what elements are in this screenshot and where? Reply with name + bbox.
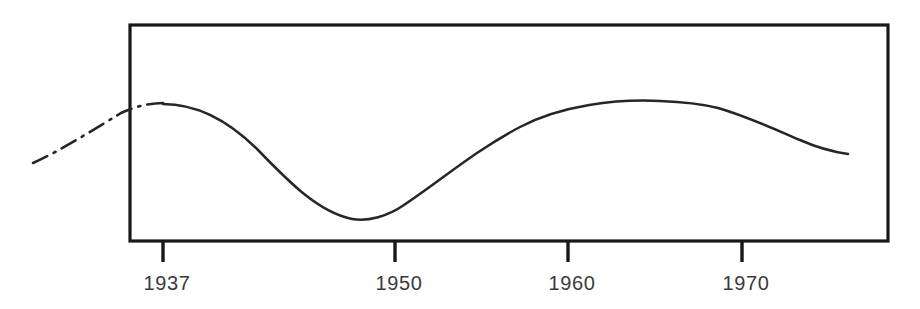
axis-tick-label-1950: 1950	[376, 272, 423, 294]
line-chart-figure: 1937 1950 1960 1970	[0, 0, 920, 309]
axis-tick-label-1960: 1960	[549, 272, 596, 294]
chart-canvas: 1937 1950 1960 1970	[0, 0, 920, 309]
axis-tick-label-1970: 1970	[723, 272, 770, 294]
axis-tick-label-1937: 1937	[144, 272, 191, 294]
